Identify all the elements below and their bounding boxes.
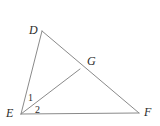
segment-DF [42, 31, 139, 113]
geometry-figure: D E F G 1 2 [0, 0, 160, 126]
angle-label-2: 2 [35, 105, 40, 115]
geometry-canvas [0, 0, 160, 126]
angle-label-1: 1 [28, 93, 33, 103]
vertex-label-F: F [144, 106, 151, 118]
vertex-label-E: E [6, 107, 13, 119]
vertex-label-G: G [87, 55, 96, 67]
vertex-label-D: D [29, 24, 38, 36]
